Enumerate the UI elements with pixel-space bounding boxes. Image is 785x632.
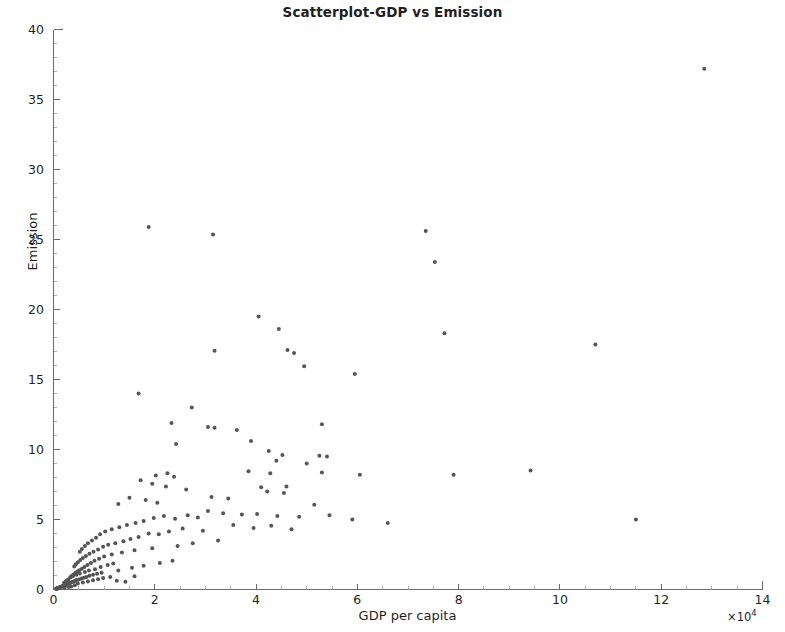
scatter-point <box>259 485 263 489</box>
scatter-point <box>71 574 75 578</box>
x-tick-label: 14 <box>743 592 783 607</box>
scatter-point <box>634 518 638 522</box>
scatter-point <box>86 579 90 583</box>
scatter-point <box>231 523 235 527</box>
scatter-point <box>302 364 306 368</box>
scatter-point <box>186 513 190 517</box>
scatter-point <box>83 544 87 548</box>
scatter-point-group <box>54 67 706 591</box>
scatter-point <box>317 454 321 458</box>
scatter-point <box>93 567 97 571</box>
scatter-point <box>93 559 97 563</box>
scatter-point <box>116 502 120 506</box>
scatter-point <box>97 557 101 561</box>
scatter-point <box>91 573 95 577</box>
scatter-point <box>164 485 168 489</box>
scatter-point <box>116 569 120 573</box>
scatter-point <box>176 544 180 548</box>
scatter-point <box>274 459 278 463</box>
scatter-point <box>67 585 71 589</box>
scatter-point <box>320 471 324 475</box>
scatter-point <box>172 475 176 479</box>
scatter-point <box>257 315 261 319</box>
scatter-point <box>99 565 103 569</box>
scatter-point <box>96 548 100 552</box>
scatter-point <box>110 527 114 531</box>
scatter-point <box>87 552 91 556</box>
scatter-point <box>290 527 294 531</box>
x-tick-label: 12 <box>641 592 681 607</box>
scatter-point <box>102 555 106 559</box>
scatter-point <box>78 550 82 554</box>
scatter-point <box>277 327 281 331</box>
scatter-point <box>54 587 58 591</box>
scatter-point <box>252 526 256 530</box>
scatter-point <box>91 578 95 582</box>
x-tick-label: 2 <box>135 592 175 607</box>
scatter-point <box>305 462 309 466</box>
scatter-point <box>150 546 154 550</box>
scatter-point <box>221 511 225 515</box>
scatter-point <box>155 501 159 505</box>
scatter-point <box>123 580 127 584</box>
scatter-point <box>139 478 143 482</box>
scatter-point <box>325 455 329 459</box>
scatter-point <box>702 67 706 71</box>
y-tick-label: 10 <box>0 442 44 457</box>
y-tick-label: 35 <box>0 92 44 107</box>
scatter-point <box>95 572 99 576</box>
y-tick-label: 15 <box>0 372 44 387</box>
scatter-point <box>213 426 217 430</box>
scatter-point <box>213 349 217 353</box>
axis-tick-marks <box>54 30 763 590</box>
y-tick-label: 0 <box>0 582 44 597</box>
scatter-point <box>120 550 124 554</box>
scatter-point <box>386 521 390 525</box>
scatter-point <box>320 422 324 426</box>
scatter-point <box>89 561 93 565</box>
y-tick-label: 5 <box>0 512 44 527</box>
scatter-point <box>128 537 132 541</box>
scatter-point <box>147 532 151 536</box>
scatter-point <box>73 583 77 587</box>
scatter-point <box>167 529 171 533</box>
scatter-point <box>249 439 253 443</box>
scatter-point <box>452 473 456 477</box>
scatter-point <box>63 586 67 590</box>
scatter-point <box>268 471 272 475</box>
scatter-point <box>133 548 137 552</box>
scatter-point <box>100 571 104 575</box>
scatter-point <box>147 225 151 229</box>
scatter-point <box>196 515 200 519</box>
scatter-point <box>81 581 85 585</box>
scatter-point <box>115 579 119 583</box>
scatter-point <box>285 348 289 352</box>
plot-canvas <box>0 0 785 632</box>
scatter-point <box>173 517 177 521</box>
scatter-point <box>125 523 129 527</box>
scatter-point <box>181 527 185 531</box>
scatter-point <box>110 553 114 557</box>
x-tick-label: 8 <box>439 592 479 607</box>
scatter-point <box>267 449 271 453</box>
axis-spines <box>54 30 763 590</box>
scatter-point <box>174 442 178 446</box>
scatter-point <box>134 521 138 525</box>
scatter-point <box>206 509 210 513</box>
scatter-point <box>78 571 82 575</box>
scatter-point <box>162 514 166 518</box>
scatter-point <box>83 570 87 574</box>
scatter-point <box>101 545 105 549</box>
y-tick-label: 40 <box>0 22 44 37</box>
x-tick-label: 10 <box>540 592 580 607</box>
scatter-point <box>442 331 446 335</box>
scatter-point <box>216 539 220 543</box>
scatter-point <box>62 581 66 585</box>
scatter-point <box>103 529 107 533</box>
scatter-point <box>312 503 316 507</box>
scatter-point <box>211 233 215 237</box>
scatter-point <box>206 425 210 429</box>
y-tick-label: 30 <box>0 162 44 177</box>
scatter-point <box>117 525 121 529</box>
scatter-point <box>142 564 146 568</box>
